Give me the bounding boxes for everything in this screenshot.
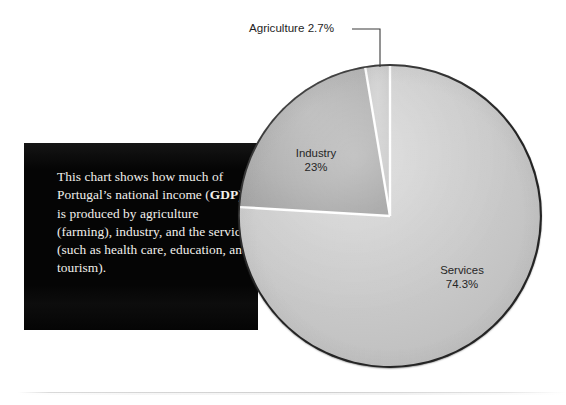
caption-text-before: This chart shows how much of Portugal’s … <box>57 169 223 202</box>
page-seam-shade <box>18 393 566 395</box>
pie-slice-industry <box>240 68 390 216</box>
figure-page: This chart shows how much of Portugal’s … <box>0 0 566 405</box>
slice-label-services: Services 74.3% <box>419 263 505 291</box>
pie-slices-svg <box>236 62 544 370</box>
slice-label-services-name: Services <box>419 263 505 277</box>
caption-bold-term: GDP <box>210 187 238 202</box>
slice-label-agriculture: Agriculture 2.7% <box>249 21 334 34</box>
pie-chart <box>236 62 544 370</box>
caption-panel: This chart shows how much of Portugal’s … <box>24 143 258 330</box>
agriculture-leader-line <box>352 25 386 67</box>
slice-label-services-value: 74.3% <box>419 277 505 291</box>
slice-label-industry-name: Industry <box>276 146 356 160</box>
slice-label-industry: Industry 23% <box>276 146 356 174</box>
caption-text: This chart shows how much of Portugal’s … <box>57 168 253 278</box>
slice-label-industry-value: 23% <box>276 160 356 174</box>
